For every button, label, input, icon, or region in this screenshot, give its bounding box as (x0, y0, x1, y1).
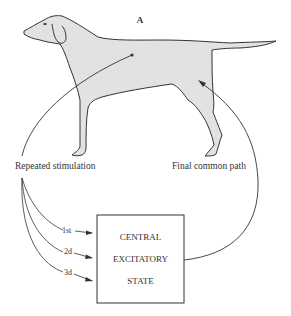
stimulus-label-2d: 2d (64, 247, 72, 256)
stimulus-curve-3 (22, 178, 63, 272)
panel-label: A (137, 15, 144, 25)
stimulus-arrowhead-3 (85, 277, 93, 282)
central-excitatory-state-diagram: A Repeated stimulation Final common path… (0, 0, 291, 316)
stimulus-label-3d: 3d (64, 268, 72, 277)
stimulus-curve-2 (22, 178, 63, 252)
box-line-3: STATE (127, 276, 154, 286)
dog-eye (43, 23, 47, 25)
final-common-path-label: Final common path (172, 161, 246, 171)
stimulus-arrowhead-1 (86, 231, 93, 236)
repeated-stimulation-label: Repeated stimulation (15, 161, 96, 171)
stimulus-curve-1 (22, 178, 63, 230)
stimulus-label-1st: 1st (62, 226, 72, 235)
box-line-2: EXCITATORY (113, 254, 169, 264)
box-line-1: CENTRAL (120, 232, 162, 242)
efferent-arc (184, 82, 258, 260)
stimulus-point (130, 53, 133, 56)
dog-silhouette (24, 16, 276, 156)
